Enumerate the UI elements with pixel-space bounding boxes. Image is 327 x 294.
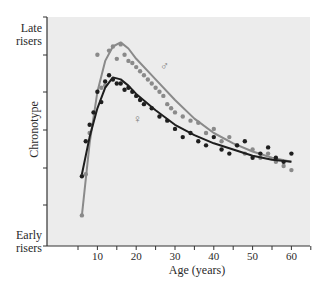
x-tick-label: 30 [165,250,185,262]
x-tick-label: 60 [281,250,301,262]
female-symbol: ♀ [133,112,142,127]
male-data-point [138,69,142,73]
male-data-point [134,65,138,69]
male-data-point [157,90,161,94]
x-tick-label: 50 [243,250,263,262]
male-data-point [165,102,169,106]
male-data-point [153,85,157,89]
male-data-point [122,53,126,57]
male-symbol: ♂ [160,59,169,74]
male-data-point [146,77,150,81]
female-data-point [227,151,231,155]
female-data-point [258,151,262,155]
male-data-point [173,110,177,114]
female-data-point [115,81,119,85]
male-data-point [227,135,231,139]
male-data-point [188,118,192,122]
female-data-point [204,143,208,147]
female-data-point [181,135,185,139]
female-data-point [87,123,91,127]
male-data-point [281,164,285,168]
female-data-point [243,139,247,143]
y-bottom-label: Early risers [0,229,42,255]
y-top-label: Late risers [0,22,42,48]
y-axis-label: Chronotype [27,90,42,170]
chronotype-chart [0,0,327,294]
female-data-point [196,139,200,143]
female-data-point [266,145,270,149]
female-data-point [173,127,177,131]
male-data-point [150,81,154,85]
female-data-point [103,79,107,83]
male-data-point [212,127,216,131]
female-data-point [80,174,84,178]
female-data-point [118,81,122,85]
x-axis-label: Age (years) [137,263,257,278]
male-data-point [161,94,165,98]
male-data-point [219,139,223,143]
male-data-point [181,114,185,118]
male-data-point [289,168,293,172]
male-data-point [115,57,119,61]
female-data-point [212,135,216,139]
male-data-point [142,73,146,77]
female-data-point [289,151,293,155]
female-data-point [235,143,239,147]
early-label-line2: risers [0,242,42,255]
late-label-line2: risers [0,35,42,48]
male-data-point [95,53,99,57]
male-data-point [126,59,130,63]
plot-area [47,17,310,246]
x-tick-label: 40 [204,250,224,262]
female-data-point [84,139,88,143]
male-data-point [130,61,134,65]
female-data-point [122,88,126,92]
x-tick-label: 20 [126,250,146,262]
x-tick-label: 10 [87,250,107,262]
male-data-point [204,131,208,135]
male-data-point [169,106,173,110]
female-data-point [95,90,99,94]
female-data-point [219,147,223,151]
female-data-point [107,73,111,77]
